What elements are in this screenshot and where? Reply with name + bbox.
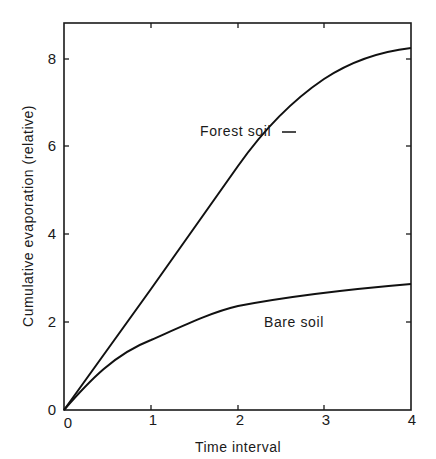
x-axis-ticks (151, 23, 324, 410)
y-tick-label-6: 6 (48, 137, 56, 154)
y-tick-label-2: 2 (48, 313, 56, 330)
y-axis-title: Cumulative evaporation (relative) (20, 105, 36, 327)
y-tick-label-4: 4 (48, 225, 56, 242)
series-forest-soil-line (64, 48, 411, 410)
y-tick-label-8: 8 (48, 50, 56, 67)
y-axis-ticks (64, 59, 411, 322)
annotation-forest-soil: Forest soil (200, 123, 271, 139)
chart-canvas: 0 2 4 6 8 0 1 2 3 4 Time interval Cumula… (0, 0, 436, 459)
series-bare-soil-line (64, 284, 411, 410)
x-tick-label-0: 0 (64, 414, 72, 431)
x-tick-label-2: 2 (236, 411, 244, 428)
plot-frame (64, 23, 411, 410)
x-axis-title: Time interval (195, 439, 281, 455)
x-tick-label-4: 4 (408, 411, 416, 428)
x-tick-label-3: 3 (322, 411, 330, 428)
y-tick-label-0: 0 (48, 401, 56, 418)
x-tick-label-1: 1 (149, 411, 157, 428)
annotation-bare-soil: Bare soil (264, 314, 324, 330)
